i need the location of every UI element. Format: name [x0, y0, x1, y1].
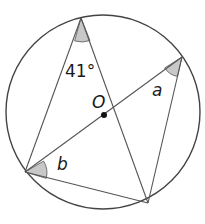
line-right-bottom: [148, 57, 182, 203]
angle-b-label: b: [57, 154, 68, 174]
circle: [6, 15, 200, 209]
line-top-left: [25, 18, 81, 172]
angle-a-label: a: [152, 80, 162, 100]
angle-41-label: 41°: [65, 61, 95, 81]
center-label: O: [92, 92, 105, 112]
circle-theorem-diagram: O 41° a b: [0, 0, 205, 224]
center-point: [101, 112, 107, 118]
line-left-bottom: [25, 172, 148, 203]
